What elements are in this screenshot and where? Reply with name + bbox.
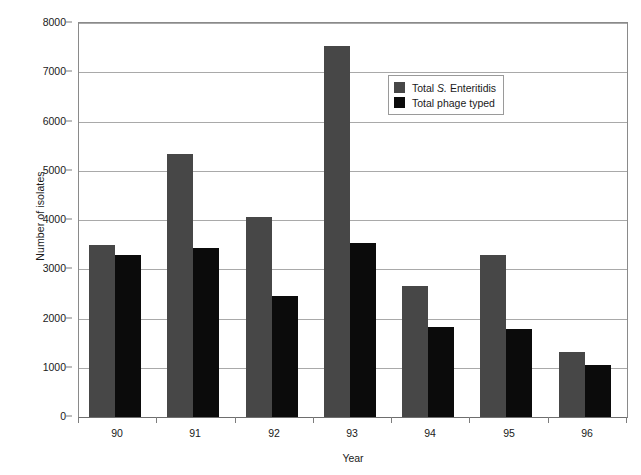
bar-94-series-1: [402, 286, 428, 417]
bar-group-91: [157, 23, 235, 417]
bar-94-series-2: [428, 327, 454, 417]
x-tick-mark: [313, 417, 314, 423]
bar-92-series-1: [246, 217, 272, 417]
bar-95-series-2: [506, 329, 532, 417]
legend-item-1: Total S. Enteritidis: [394, 80, 496, 95]
y-tick-mark: [66, 120, 72, 121]
bar-90-series-1: [89, 245, 115, 417]
x-tick-mark: [548, 417, 549, 423]
bar-93-series-2: [350, 243, 376, 417]
x-tick-label-94: 94: [424, 427, 436, 439]
y-tick-mark: [66, 366, 72, 367]
legend-swatch-1: [394, 82, 405, 93]
x-axis-ticks: 90919293949596: [78, 417, 628, 457]
x-tick-mark: [235, 417, 236, 423]
x-tick-label-95: 95: [503, 427, 515, 439]
y-tick-mark: [66, 219, 72, 220]
x-tick-label-93: 93: [346, 427, 358, 439]
x-tick-label-96: 96: [581, 427, 593, 439]
x-tick-label-92: 92: [268, 427, 280, 439]
bar-96-series-2: [585, 365, 611, 417]
bar-91-series-2: [193, 248, 219, 417]
y-tick-label: 5000: [43, 164, 66, 176]
x-axis-title: Year: [78, 452, 628, 464]
y-axis-ticks: 010002000300040005000600070008000: [24, 0, 72, 475]
x-tick-mark: [391, 417, 392, 423]
y-tick-mark: [66, 22, 72, 23]
y-tick-label: 1000: [43, 361, 66, 373]
y-tick-label: 3000: [43, 262, 66, 274]
legend: Total S. EnteritidisTotal phage typed: [388, 75, 504, 115]
y-tick-label: 6000: [43, 115, 66, 127]
x-tick-label-90: 90: [111, 427, 123, 439]
y-tick-mark: [66, 169, 72, 170]
bar-groups: [79, 23, 627, 417]
plot-area: [78, 22, 628, 418]
legend-label-2: Total phage typed: [412, 97, 495, 109]
bar-95-series-1: [480, 255, 506, 417]
x-tick-mark: [626, 417, 627, 423]
legend-swatch-2: [394, 97, 405, 108]
x-tick-mark: [78, 417, 79, 423]
x-tick-mark: [156, 417, 157, 423]
y-tick-mark: [66, 416, 72, 417]
bar-92-series-2: [272, 296, 298, 417]
bar-chart: Number of isolates 010002000300040005000…: [0, 0, 641, 475]
bar-90-series-2: [115, 255, 141, 417]
bar-group-96: [549, 23, 627, 417]
y-tick-label: 7000: [43, 65, 66, 77]
y-tick-mark: [66, 268, 72, 269]
x-tick-mark: [469, 417, 470, 423]
bar-93-series-1: [324, 46, 350, 417]
y-tick-mark: [66, 71, 72, 72]
y-tick-label: 2000: [43, 312, 66, 324]
y-tick-label: 4000: [43, 213, 66, 225]
y-tick-mark: [66, 317, 72, 318]
bar-group-92: [236, 23, 314, 417]
bar-96-series-1: [559, 352, 585, 417]
y-tick-label: 8000: [43, 16, 66, 28]
bar-group-93: [314, 23, 392, 417]
bar-91-series-1: [167, 154, 193, 417]
x-tick-label-91: 91: [189, 427, 201, 439]
bar-group-90: [79, 23, 157, 417]
legend-item-2: Total phage typed: [394, 95, 496, 110]
legend-label-1: Total S. Enteritidis: [412, 82, 496, 94]
